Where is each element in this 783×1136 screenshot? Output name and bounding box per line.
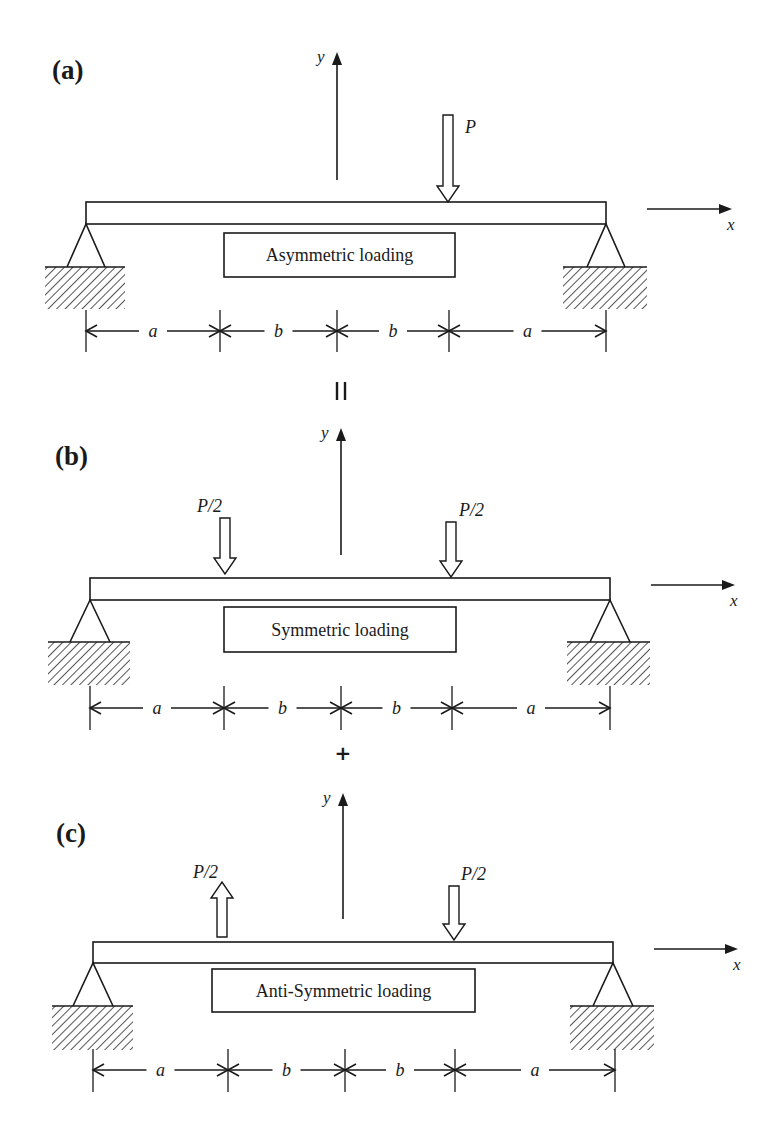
loading-type-label: Anti-Symmetric loading — [256, 981, 431, 1001]
panel-label: (c) — [56, 818, 86, 848]
right-pin-support — [570, 963, 654, 1050]
dimension-label-b: b — [396, 1060, 405, 1080]
loading-type-label: Asymmetric loading — [266, 245, 413, 265]
x-axis: x — [647, 204, 735, 234]
down-force-arrow-icon — [437, 115, 459, 202]
loading-title-box: Asymmetric loading — [224, 233, 455, 277]
loading-title-box: Anti-Symmetric loading — [212, 969, 475, 1012]
down-force-arrow-icon — [214, 518, 236, 574]
y-axis-arrow-icon — [338, 793, 348, 806]
y-axis-arrow-icon — [336, 428, 346, 441]
panel-c: (c)yxAnti-Symmetric loadingP/2P/2abba — [52, 788, 741, 1092]
panel-label: (b) — [55, 441, 88, 471]
beam — [90, 578, 610, 600]
panel-a: (a)yxAsymmetric loadingPabba — [45, 47, 735, 352]
right-pin-support — [563, 224, 647, 309]
loading-title-box: Symmetric loading — [224, 607, 456, 652]
x-axis-label: x — [732, 955, 741, 974]
ground-hatch — [563, 267, 647, 309]
y-axis: y — [321, 788, 348, 919]
dimension-label-a: a — [531, 1060, 540, 1080]
panel-label: (a) — [52, 55, 83, 85]
beam — [86, 202, 606, 224]
dimension-label-a: a — [523, 321, 532, 341]
support-triangle-icon — [73, 963, 113, 1006]
dimension-label-a: a — [149, 321, 158, 341]
x-axis: x — [654, 944, 741, 974]
dimension-label-b: b — [392, 698, 401, 718]
ground-hatch — [45, 267, 125, 309]
load-label: P/2 — [458, 500, 484, 520]
left-pin-support — [48, 600, 130, 685]
load-down: P — [437, 115, 476, 202]
support-triangle-icon — [70, 600, 110, 642]
support-triangle-icon — [587, 224, 625, 267]
dimension-label-a: a — [527, 698, 536, 718]
dimension-label-b: b — [282, 1060, 291, 1080]
equals-sign-rotated — [337, 382, 345, 400]
x-axis-arrow-icon — [725, 944, 738, 954]
load-label: P/2 — [192, 862, 218, 882]
y-axis-arrow-icon — [332, 52, 342, 65]
y-axis: y — [319, 423, 346, 555]
x-axis-label: x — [729, 591, 738, 610]
left-pin-support — [45, 224, 125, 309]
load-label: P/2 — [460, 864, 486, 884]
dimension-line: abba — [93, 1049, 615, 1092]
dimension-label-b: b — [278, 698, 287, 718]
load-down: P/2 — [443, 864, 486, 940]
dimension-line: abba — [86, 310, 606, 352]
dimension-line: abba — [90, 686, 610, 730]
support-triangle-icon — [67, 224, 105, 267]
up-force-arrow-icon — [211, 882, 233, 937]
y-axis-label: y — [319, 423, 329, 442]
beam-loading-decomposition-figure: + (a)yxAsymmetric loadingPabba(b)yxSymme… — [0, 0, 783, 1136]
beam — [93, 942, 613, 963]
ground-hatch — [48, 642, 130, 685]
support-triangle-icon — [590, 600, 630, 642]
down-force-arrow-icon — [443, 886, 465, 940]
panel-b: (b)yxSymmetric loadingP/2P/2abba — [48, 423, 738, 730]
panels: (a)yxAsymmetric loadingPabba(b)yxSymmetr… — [45, 47, 741, 1092]
down-force-arrow-icon — [440, 522, 462, 577]
load-up: P/2 — [192, 862, 233, 937]
load-label: P/2 — [196, 496, 222, 516]
load-label: P — [464, 117, 476, 137]
dimension-label-b: b — [389, 321, 398, 341]
ground-hatch — [570, 1006, 654, 1050]
ground-hatch — [52, 1006, 133, 1050]
right-pin-support — [567, 600, 650, 685]
y-axis: y — [315, 47, 342, 180]
figure-svg: + (a)yxAsymmetric loadingPabba(b)yxSymme… — [0, 0, 783, 1136]
left-pin-support — [52, 963, 133, 1050]
load-down: P/2 — [196, 496, 236, 574]
x-axis: x — [651, 580, 738, 610]
y-axis-label: y — [315, 47, 325, 66]
dimension-label-b: b — [274, 321, 283, 341]
y-axis-label: y — [321, 788, 331, 807]
x-axis-arrow-icon — [719, 204, 732, 214]
x-axis-arrow-icon — [722, 580, 735, 590]
support-triangle-icon — [593, 963, 633, 1006]
load-down: P/2 — [440, 500, 484, 577]
dimension-label-a: a — [156, 1060, 165, 1080]
plus-sign: + — [335, 741, 352, 765]
dimension-label-a: a — [153, 698, 162, 718]
ground-hatch — [567, 642, 650, 685]
loading-type-label: Symmetric loading — [271, 620, 408, 640]
x-axis-label: x — [726, 215, 735, 234]
